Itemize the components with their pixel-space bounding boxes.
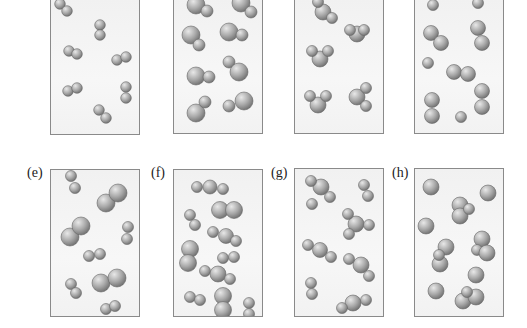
atom-sphere: [326, 252, 337, 263]
panel-g: [294, 168, 384, 317]
atom-sphere: [423, 58, 434, 69]
panel-c: [294, 0, 384, 134]
atom-sphere: [364, 271, 375, 282]
atom-sphere: [225, 274, 236, 285]
atom-sphere: [361, 83, 372, 94]
molecule: [306, 278, 318, 300]
molecule: [345, 25, 370, 43]
molecule: [344, 254, 375, 282]
atom-sphere: [359, 180, 370, 191]
molecule: [303, 240, 337, 263]
atom-sphere: [193, 39, 205, 51]
atom: [423, 58, 434, 69]
atom-sphere: [327, 13, 338, 24]
molecule: [61, 217, 90, 246]
atom-sphere: [323, 46, 334, 57]
molecule: [94, 105, 112, 124]
molecule: [215, 288, 232, 317]
molecule: [359, 180, 374, 202]
panel-label-e: (e): [27, 165, 43, 181]
molecule: [192, 180, 229, 195]
atom-sphere: [244, 309, 255, 317]
molecule: [425, 93, 440, 124]
atom-sphere: [187, 67, 205, 85]
atom-sphere: [72, 83, 83, 94]
molecule: [180, 241, 199, 272]
molecule: [343, 209, 375, 240]
atom-sphere: [425, 93, 440, 108]
atom-sphere: [66, 171, 77, 182]
atom-sphere: [72, 217, 90, 235]
atom-sphere: [215, 302, 232, 317]
molecule: [185, 292, 206, 306]
atom-sphere: [306, 278, 317, 289]
panel-label-h: (h): [392, 165, 408, 181]
atom-sphere: [307, 199, 318, 210]
atom-sphere: [95, 249, 106, 260]
atom-sphere: [353, 257, 369, 273]
atom-sphere: [305, 91, 316, 102]
atom-sphere: [230, 63, 248, 81]
molecule: [475, 84, 490, 115]
molecule: [424, 26, 449, 51]
molecule: [337, 295, 372, 314]
atom-sphere: [307, 46, 318, 57]
molecule: [455, 287, 484, 310]
atom: [428, 283, 444, 299]
atom-sphere: [195, 295, 206, 306]
molecule: [92, 269, 126, 292]
molecules-f: [174, 170, 262, 316]
atom-sphere: [122, 234, 133, 245]
molecule: [185, 210, 201, 231]
molecule: [313, 0, 338, 24]
atom-sphere: [325, 192, 336, 203]
atom-sphere: [220, 23, 238, 41]
atom-sphere: [185, 292, 196, 303]
atom: [480, 185, 496, 201]
molecule: [121, 82, 132, 104]
molecule: [55, 0, 73, 16]
molecules-e: [51, 170, 139, 316]
atom-sphere: [218, 253, 229, 264]
atom-sphere: [201, 5, 213, 17]
atom-sphere: [203, 180, 217, 194]
atom-sphere: [71, 288, 82, 299]
atom-sphere: [123, 222, 134, 233]
atom-sphere: [480, 185, 496, 201]
atom: [473, 0, 484, 9]
molecule: [66, 171, 81, 194]
panel-a: [50, 0, 140, 135]
molecule: [208, 227, 242, 247]
atom-sphere: [361, 295, 372, 306]
molecule: [452, 197, 475, 224]
atom-sphere: [363, 191, 374, 202]
molecule: [349, 83, 372, 112]
atom-sphere: [434, 250, 445, 261]
atom-sphere: [101, 113, 112, 124]
atom-sphere: [108, 269, 126, 287]
atom-sphere: [343, 209, 354, 220]
atom-sphere: [121, 93, 132, 104]
atom-sphere: [461, 67, 476, 82]
atom-sphere: [62, 6, 73, 17]
molecule: [223, 92, 253, 112]
molecules-h: [415, 169, 503, 316]
atom-sphere: [190, 220, 201, 231]
molecules-b: [174, 0, 262, 133]
molecule: [112, 52, 132, 66]
molecule: [97, 184, 127, 212]
atom-sphere: [479, 245, 495, 261]
molecule: [244, 298, 255, 317]
atom-sphere: [226, 202, 243, 219]
atom-sphere: [95, 30, 106, 41]
atom-sphere: [84, 251, 95, 262]
atom-sphere: [428, 0, 439, 11]
atom-sphere: [456, 112, 467, 123]
molecule: [64, 46, 83, 60]
molecule: [212, 202, 243, 219]
atom: [428, 0, 439, 11]
atom-sphere: [245, 6, 257, 18]
atom: [468, 267, 484, 283]
atom-sphere: [475, 36, 490, 51]
atom-sphere: [475, 84, 490, 99]
